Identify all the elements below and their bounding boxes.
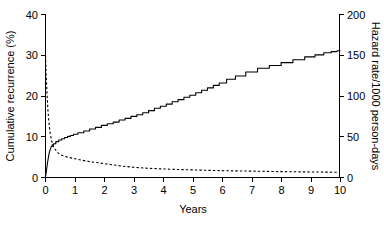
left-axis-title: Cumulative recurrence (%) — [4, 31, 16, 162]
x-tick-label: 8 — [278, 184, 284, 196]
right-axis-tick-labels: 200 150 100 50 0 — [347, 9, 365, 184]
x-tick-label: 7 — [249, 184, 255, 196]
right-axis-ticks — [340, 15, 344, 178]
x-axis-ticks — [46, 178, 341, 182]
x-tick-label: 6 — [219, 184, 225, 196]
chart-figure: 40 30 20 10 0 200 150 100 50 0 — [0, 0, 384, 225]
left-tick-label: 30 — [26, 49, 38, 61]
x-tick-label: 3 — [131, 184, 137, 196]
right-tick-label: 0 — [347, 172, 353, 184]
left-tick-label: 40 — [26, 9, 38, 21]
left-tick-label: 0 — [32, 172, 38, 184]
x-tick-label: 0 — [42, 184, 48, 196]
left-axis-ticks — [41, 15, 45, 178]
series-cumulative-recurrence-line — [46, 51, 341, 178]
left-axis-tick-labels: 40 30 20 10 0 — [26, 9, 38, 184]
right-tick-label: 200 — [347, 9, 365, 21]
left-tick-label: 20 — [26, 90, 38, 102]
x-tick-label: 10 — [334, 184, 346, 196]
x-tick-label: 9 — [308, 184, 314, 196]
x-axis-tick-labels: 0 1 2 3 4 5 6 7 8 9 10 — [42, 184, 346, 196]
right-axis-title: Hazard rate/1000 person-days — [370, 22, 382, 171]
x-tick-label: 1 — [72, 184, 78, 196]
chart-svg: 40 30 20 10 0 200 150 100 50 0 — [0, 0, 384, 225]
series-hazard-rate-line — [46, 55, 341, 172]
x-axis-title: Years — [179, 203, 207, 215]
right-tick-label: 100 — [347, 90, 365, 102]
x-tick-label: 5 — [190, 184, 196, 196]
right-tick-label: 150 — [347, 49, 365, 61]
x-tick-label: 4 — [160, 184, 166, 196]
left-tick-label: 10 — [26, 131, 38, 143]
x-tick-label: 2 — [101, 184, 107, 196]
right-tick-label: 50 — [347, 131, 359, 143]
